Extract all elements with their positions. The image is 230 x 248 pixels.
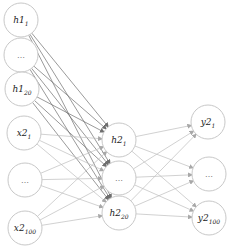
node-label: …	[115, 174, 123, 183]
node-x2_1: x21	[7, 116, 41, 150]
edge-x2_100-h2_mid	[40, 186, 104, 220]
node-h2_mid: …	[102, 161, 136, 195]
edge-x2_mid-h2_1	[41, 147, 104, 174]
node-y2_100: y2100	[192, 201, 226, 235]
edge-h2_20-y2_mid	[135, 181, 194, 206]
neural-network-diagram: h11…h120x21…x2100h21…h220y21…y2100	[0, 0, 230, 248]
node-h2_20: h220	[102, 196, 136, 230]
node-label: …	[17, 51, 25, 60]
nodes-group: h11…h120x21…x2100h21…h220y21…y2100	[4, 3, 226, 245]
node-h1_20: h120	[5, 72, 39, 106]
edge-h1_1-h2_1	[32, 33, 108, 127]
edge-x2_1-h2_mid	[39, 140, 103, 170]
edge-h2_20-y2_1	[131, 134, 196, 201]
edge-h2_mid-y2_mid	[136, 175, 192, 177]
node-label: …	[21, 176, 29, 185]
edge-h2_1-y2_1	[136, 125, 192, 136]
edge-h2_mid-y2_1	[133, 131, 193, 169]
edge-h1_mid-h2_1	[34, 66, 106, 129]
node-x2_mid: …	[8, 163, 42, 197]
node-h2_1: h21	[102, 123, 136, 157]
edge-h2_mid-y2_100	[135, 185, 194, 211]
edge-x2_100-h2_20	[42, 216, 102, 226]
edge-h2_1-y2_100	[132, 151, 196, 207]
node-label: …	[205, 170, 213, 179]
node-h1_mid: …	[4, 38, 38, 72]
edge-h1_20-h2_mid	[35, 101, 107, 167]
node-y2_mid: …	[192, 157, 226, 191]
edge-h1_20-h2_1	[37, 97, 104, 132]
edge-h2_20-y2_100	[136, 214, 192, 217]
edge-h1_1-h2_mid	[30, 34, 110, 163]
node-h1_1: h11	[4, 3, 38, 37]
node-y2_1: y21	[191, 105, 225, 139]
node-x2_100: x2100	[8, 211, 42, 245]
